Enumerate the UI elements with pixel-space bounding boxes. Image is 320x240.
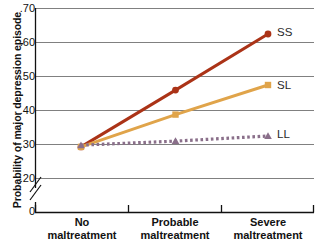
x-tick-label-severe-maltreatment: Severe maltreatment	[223, 216, 313, 240]
x-tick-line1: Severe	[223, 216, 313, 229]
data-point-ss-1	[172, 87, 179, 94]
x-tick-line1: No	[37, 216, 127, 229]
x-tick-line2: maltreatment	[37, 229, 127, 240]
x-tick-label-probable-maltreatment: Probable maltreatment	[130, 216, 220, 240]
x-tick-line2: maltreatment	[223, 229, 313, 240]
depression-probability-chart: Probability of major depression episode …	[0, 0, 320, 240]
series-label-sl: SL	[277, 79, 291, 91]
data-point-sl-1	[172, 111, 178, 117]
data-point-ll-1	[172, 137, 180, 144]
data-series-layer	[77, 31, 272, 151]
plot-area	[0, 0, 320, 240]
x-tick-label-no-maltreatment: No maltreatment	[37, 216, 127, 240]
x-tick-line2: maltreatment	[130, 229, 220, 240]
series-label-ss: SS	[277, 26, 292, 38]
gridlines	[35, 9, 314, 179]
data-point-ss-2	[265, 31, 272, 38]
data-point-sl-2	[265, 82, 271, 88]
series-label-ll: LL	[277, 128, 290, 140]
x-tick-line1: Probable	[130, 216, 220, 229]
